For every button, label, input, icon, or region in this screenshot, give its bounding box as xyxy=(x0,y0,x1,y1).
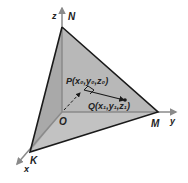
point-p-label: P(x₀,y₀,z₀) xyxy=(66,76,108,86)
z-axis-label: z xyxy=(51,11,57,21)
origin-label: O xyxy=(59,116,67,127)
point-q-label: Q(x₁,y₁,z₁) xyxy=(88,101,130,111)
x-axis-label: x xyxy=(23,164,30,174)
diagram-canvas: z N P(x₀,y₀,z₀) Q(x₁,y₁,z₁) O M y K x xyxy=(0,0,188,183)
vertex-n-label: N xyxy=(68,11,76,22)
vertex-m-label: M xyxy=(151,118,160,129)
vertex-k-label: K xyxy=(30,155,38,166)
y-axis-label: y xyxy=(169,116,176,126)
